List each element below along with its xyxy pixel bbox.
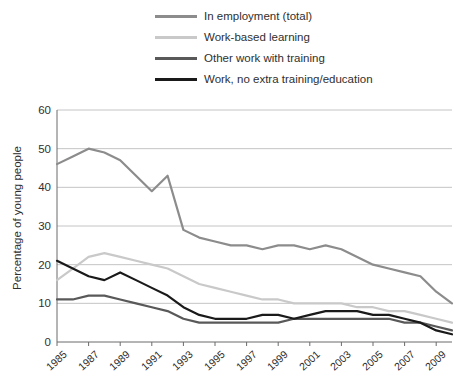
plot-area: Percentage of young people 0102030405060… — [57, 110, 452, 342]
legend-item[interactable]: In employment (total) — [155, 6, 455, 27]
legend-line-swatch — [155, 57, 197, 60]
legend-item-label: Work-based learning — [204, 32, 310, 44]
y-tick-label: 20 — [38, 259, 51, 271]
x-tick-label: 1997 — [233, 348, 258, 373]
legend-item[interactable]: Other work with training — [155, 48, 455, 69]
axis-lines — [57, 110, 436, 346]
legend-item-label: Other work with training — [204, 53, 325, 65]
series-line — [57, 253, 452, 323]
x-tick-label: 1985 — [44, 348, 69, 373]
y-axis-label: Percentage of young people — [11, 102, 25, 334]
legend-line-swatch — [155, 15, 197, 18]
x-tick-label: 1999 — [265, 348, 290, 373]
chart-figure: In employment (total) Work-based learnin… — [0, 0, 456, 384]
y-tick-label: 10 — [38, 297, 51, 309]
x-tick-label: 2003 — [328, 348, 353, 373]
y-tick-label: 60 — [38, 104, 51, 116]
gridlines — [57, 110, 452, 342]
x-tick-label: 2005 — [360, 348, 385, 373]
x-tick-label: 2001 — [296, 348, 321, 373]
x-tick-label: 1989 — [107, 348, 132, 373]
y-tick-label: 50 — [38, 143, 51, 155]
legend-item[interactable]: Work, no extra training/education — [155, 69, 455, 90]
y-tick-label: 0 — [45, 336, 51, 348]
x-tick-label: 1995 — [202, 348, 227, 373]
series-line — [57, 296, 452, 331]
chart-legend: In employment (total) Work-based learnin… — [155, 6, 455, 90]
legend-item[interactable]: Work-based learning — [155, 27, 455, 48]
x-tick-label: 1991 — [138, 348, 163, 373]
x-tick-label: 2007 — [391, 348, 416, 373]
y-tick-label: 30 — [38, 220, 51, 232]
x-tick-label: 2009 — [423, 348, 448, 373]
y-tick-label: 40 — [38, 181, 51, 193]
x-tick-label: 1987 — [75, 348, 100, 373]
legend-item-label: In employment (total) — [204, 11, 312, 23]
series-lines — [57, 149, 452, 335]
plot-canvas — [57, 110, 452, 342]
legend-line-swatch — [155, 36, 197, 39]
x-tick-label: 1993 — [170, 348, 195, 373]
legend-line-swatch — [155, 78, 197, 81]
legend-item-label: Work, no extra training/education — [204, 74, 373, 86]
